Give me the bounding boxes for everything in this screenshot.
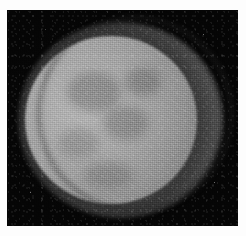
sky-speck [214,182,215,183]
screenshot-root [0,0,246,236]
sky-speck [203,34,204,35]
surface-mare-patch [103,106,149,140]
sky-speck [45,29,46,30]
surface-mare-patch [67,72,121,112]
astronomical-image-plate [7,10,238,226]
surface-mare-patch [59,128,99,158]
surface-mare-patch [83,162,133,188]
surface-mare-patch [125,68,161,96]
sky-speck [30,192,31,193]
